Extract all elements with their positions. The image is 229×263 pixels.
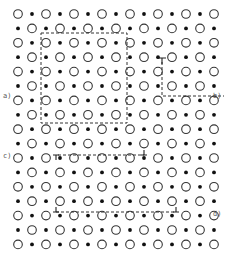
lattice-site-filled: [198, 156, 202, 160]
lattice-site-filled: [30, 156, 34, 160]
lattice-site-open: [112, 111, 121, 120]
lattice-site-open: [182, 67, 191, 76]
lattice-site-open: [70, 67, 79, 76]
lattice-site-open: [84, 226, 93, 235]
lattice-sites: [14, 10, 219, 249]
lattice-site-filled: [142, 41, 146, 45]
lattice-site-filled: [170, 185, 174, 189]
lattice-site-filled: [16, 228, 20, 232]
lattice-site-filled: [114, 185, 118, 189]
lattice-site-filled: [212, 142, 216, 146]
lattice-site-open: [196, 111, 205, 120]
lattice-site-filled: [170, 156, 174, 160]
lattice-site-filled: [16, 84, 20, 88]
lattice-site-open: [14, 10, 23, 19]
lattice-site-open: [210, 39, 219, 48]
lattice-site-filled: [156, 142, 160, 146]
lattice-site-filled: [142, 243, 146, 247]
lattice-site-open: [42, 211, 51, 220]
lattice-site-filled: [58, 214, 62, 218]
lattice-site-open: [98, 39, 107, 48]
lattice-site-filled: [170, 41, 174, 45]
lattice-site-filled: [114, 243, 118, 247]
lattice-site-filled: [44, 228, 48, 232]
lattice-site-filled: [184, 84, 188, 88]
lattice-site-filled: [16, 27, 20, 31]
lattice-site-open: [84, 53, 93, 62]
dislocation-symbol-d-start: [53, 207, 59, 212]
lattice-site-open: [84, 139, 93, 148]
lattice-site-filled: [212, 27, 216, 31]
dislocation-box-a: [41, 33, 127, 123]
lattice-site-open: [210, 10, 219, 19]
lattice-site-open: [140, 139, 149, 148]
lattice-site-open: [126, 211, 135, 220]
lattice-site-filled: [72, 84, 76, 88]
lattice-site-filled: [86, 214, 90, 218]
lattice-site-open: [14, 240, 23, 249]
lattice-site-open: [56, 24, 65, 33]
lattice-site-filled: [58, 185, 62, 189]
lattice-site-filled: [30, 185, 34, 189]
lattice-site-open: [14, 154, 23, 163]
lattice-site-open: [182, 183, 191, 192]
lattice-site-filled: [16, 142, 20, 146]
label-c: c): [3, 152, 11, 160]
lattice-site-filled: [86, 41, 90, 45]
lattice-site-filled: [142, 127, 146, 131]
lattice-site-filled: [212, 55, 216, 59]
lattice-site-open: [84, 82, 93, 91]
lattice-site-filled: [44, 55, 48, 59]
lattice-site-open: [196, 82, 205, 91]
lattice-site-filled: [72, 113, 76, 117]
dislocation-symbol-c-start: [53, 155, 59, 160]
lattice-site-open: [112, 53, 121, 62]
lattice-site-filled: [30, 99, 34, 103]
lattice-site-filled: [114, 214, 118, 218]
lattice-site-open: [42, 125, 51, 134]
lattice-site-open: [112, 139, 121, 148]
lattice-site-filled: [44, 199, 48, 203]
dislocation-symbol-c-end: [141, 150, 147, 155]
lattice-site-open: [154, 125, 163, 134]
lattice-site-filled: [100, 171, 104, 175]
lattice-site-open: [28, 24, 37, 33]
lattice-site-open: [168, 139, 177, 148]
lattice-site-filled: [170, 214, 174, 218]
lattice-site-filled: [198, 127, 202, 131]
lattice-site-filled: [30, 214, 34, 218]
lattice-site-filled: [128, 228, 132, 232]
lattice-site-open: [28, 82, 37, 91]
lattice-site-filled: [114, 41, 118, 45]
lattice-site-open: [98, 240, 107, 249]
lattice-site-open: [154, 183, 163, 192]
lattice-site-open: [56, 168, 65, 177]
lattice-site-filled: [156, 199, 160, 203]
lattice-site-open: [28, 139, 37, 148]
lattice-site-filled: [114, 12, 118, 16]
lattice-site-open: [98, 96, 107, 105]
lattice-site-open: [56, 111, 65, 120]
lattice-site-filled: [114, 156, 118, 160]
lattice-site-open: [140, 82, 149, 91]
lattice-site-filled: [198, 243, 202, 247]
lattice-site-filled: [198, 214, 202, 218]
lattice-site-open: [112, 197, 121, 206]
lattice-site-open: [70, 125, 79, 134]
lattice-site-filled: [100, 199, 104, 203]
lattice-site-open: [56, 82, 65, 91]
lattice-site-filled: [114, 70, 118, 74]
lattice-site-open: [196, 53, 205, 62]
lattice-site-open: [98, 67, 107, 76]
lattice-site-open: [14, 39, 23, 48]
lattice-site-filled: [86, 185, 90, 189]
lattice-site-filled: [114, 127, 118, 131]
lattice-site-open: [140, 226, 149, 235]
lattice-site-filled: [198, 12, 202, 16]
lattice-site-filled: [86, 243, 90, 247]
lattice-site-open: [70, 183, 79, 192]
lattice-site-open: [14, 211, 23, 220]
lattice-site-filled: [212, 84, 216, 88]
lattice-site-open: [154, 96, 163, 105]
lattice-site-open: [182, 39, 191, 48]
